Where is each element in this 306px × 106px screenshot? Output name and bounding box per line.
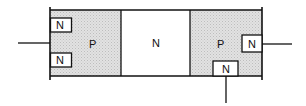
- label-left-bottom-n: N: [56, 54, 64, 66]
- label-left-p: P: [89, 38, 96, 50]
- label-right-p: P: [217, 38, 224, 50]
- label-right-bottom-n: N: [222, 63, 230, 75]
- label-middle-n: N: [152, 37, 160, 49]
- pnpn-diagram: P N P N N N N: [0, 0, 306, 106]
- label-left-top-n: N: [56, 19, 64, 31]
- label-right-side-n: N: [248, 38, 256, 50]
